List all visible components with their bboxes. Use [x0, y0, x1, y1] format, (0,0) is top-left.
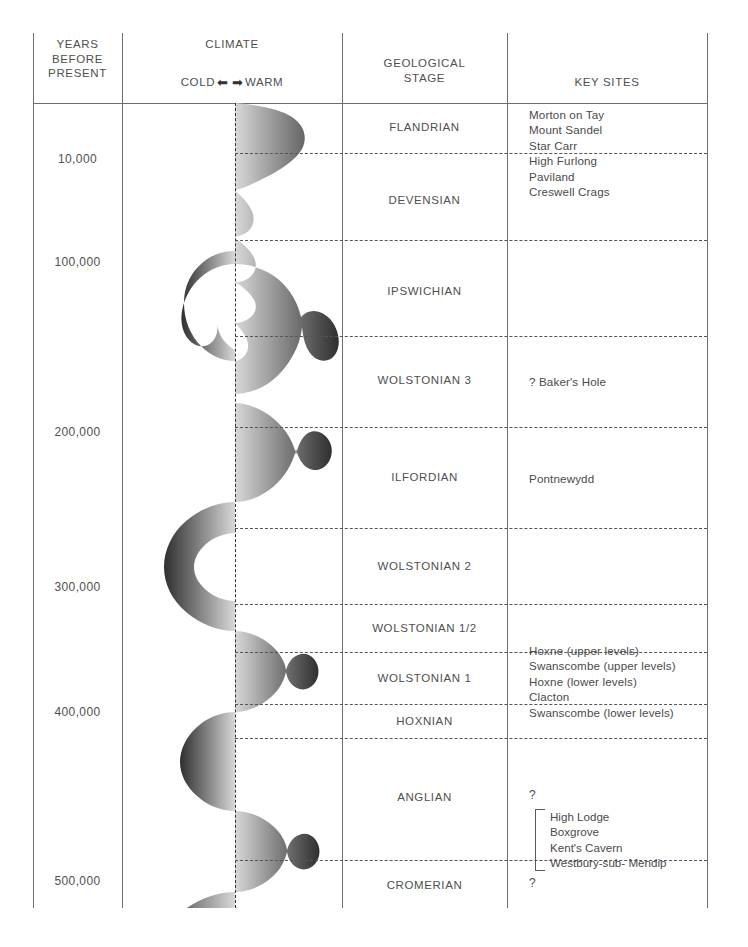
climate-curve-chart	[122, 103, 342, 908]
stage-boundary-flandrian-devensian	[235, 153, 707, 154]
list-item: Star Carr	[529, 138, 610, 153]
left-arrow-icon: ⬅	[215, 75, 230, 90]
stage-label-hoxnian: HOXNIAN	[342, 715, 507, 727]
list-item: Morton on Tay	[529, 107, 610, 122]
climate-curve-ilfordian-warm	[235, 403, 332, 502]
year-tick-100000: 100,000	[33, 255, 122, 269]
stage-boundary-wolstonian2-wolstonian12	[235, 604, 707, 605]
cold-label: COLD	[181, 76, 215, 88]
climate-curve-wolstonian2-cold	[164, 502, 235, 631]
chart-frame: YEARS BEFORE PRESENT CLIMATE COLD⬅➡WARM …	[33, 33, 708, 908]
year-tick-10000: 10,000	[33, 152, 122, 166]
column-header-geological-stage: GEOLOGICAL STAGE	[342, 56, 507, 86]
list-item: Mount Sandel	[529, 122, 610, 137]
climate-curve-wolstonian12-warm	[235, 631, 318, 712]
stage-boundary-ipswichian-wolstonian3	[235, 336, 707, 337]
climate-curve-hoxnian-warm	[235, 811, 319, 892]
stage-label-ilfordian: ILFORDIAN	[342, 471, 507, 483]
stage-label-cromerian: CROMERIAN	[342, 879, 507, 891]
stage-label-wolstonian-1: WOLSTONIAN 1	[342, 672, 507, 684]
year-tick-400000: 400,000	[33, 705, 122, 719]
column-header-key-sites: KEY SITES	[507, 75, 707, 90]
list-item: Hoxne (lower levels)	[529, 674, 676, 689]
climate-curve-anglian-cold	[155, 892, 235, 908]
list-item: Boxgrove	[550, 824, 666, 839]
stage-header-line2: STAGE	[342, 71, 507, 86]
column-divider-stage	[507, 33, 508, 908]
years-header-line3: PRESENT	[33, 66, 122, 81]
stage-header-line1: GEOLOGICAL	[342, 56, 507, 71]
stage-boundary-hoxnian-anglian	[235, 738, 707, 739]
climate-zero-axis	[235, 103, 236, 908]
list-item: Hoxne (upper levels)	[529, 643, 676, 658]
column-header-climate: CLIMATE	[122, 37, 342, 52]
key-sites-list-hoxnian: Hoxne (upper levels) Swanscombe (upper l…	[529, 643, 676, 720]
years-header-line1: YEARS	[33, 37, 122, 52]
stage-label-anglian: ANGLIAN	[342, 791, 507, 803]
list-item: Swanscombe (upper levels)	[529, 658, 676, 673]
key-sites-bracketed-group: High Lodge Boxgrove Kent's Cavern Westbu…	[535, 809, 666, 871]
key-site-bakers-hole: ? Baker's Hole	[529, 374, 606, 389]
stage-label-devensian: DEVENSIAN	[342, 194, 507, 206]
year-tick-500000: 500,000	[33, 874, 122, 888]
list-item: Paviland	[529, 169, 610, 184]
stage-label-ipswichian: IPSWICHIAN	[342, 285, 507, 297]
right-arrow-icon: ➡	[230, 75, 245, 90]
stage-label-wolstonian-3: WOLSTONIAN 3	[342, 374, 507, 386]
list-item: High Furlong	[529, 153, 610, 168]
key-sites-list-flandrian-devensian: Morton on Tay Mount Sandel Star Carr Hig…	[529, 107, 610, 199]
list-item: Clacton	[529, 689, 676, 704]
stage-boundary-wolstonian3-ilfordian	[235, 427, 707, 428]
climate-curve-cromerian	[235, 907, 251, 908]
key-site-anglian-query: ?	[529, 788, 536, 802]
key-site-pontnewydd: Pontnewydd	[529, 471, 594, 486]
stage-boundary-ilfordian-wolstonian2	[235, 528, 707, 529]
column-header-years: YEARS BEFORE PRESENT	[33, 37, 122, 81]
list-item: High Lodge	[550, 809, 666, 824]
climate-scale-legend: COLD⬅➡WARM	[122, 75, 342, 91]
climate-curve-cold-fill	[181, 251, 235, 361]
key-site-cromerian-query: ?	[529, 876, 536, 890]
list-item: Kent's Cavern	[550, 840, 666, 855]
years-header-line2: BEFORE	[33, 52, 122, 67]
stage-boundary-devensian-ipswichian	[235, 240, 707, 241]
bracketed-site-list: High Lodge Boxgrove Kent's Cavern Westbu…	[545, 809, 666, 871]
year-tick-200000: 200,000	[33, 425, 122, 439]
frame-right-border	[707, 33, 708, 908]
list-item: Swanscombe (lower levels)	[529, 705, 676, 720]
stage-label-wolstonian-1-2: WOLSTONIAN 1/2	[342, 622, 507, 634]
climate-curve-wolstonian1-cold	[180, 712, 235, 811]
stage-label-wolstonian-2: WOLSTONIAN 2	[342, 560, 507, 572]
list-item: Westbury-sub- Mendip	[550, 855, 666, 870]
climate-curve-warm-fill	[235, 103, 339, 394]
list-item: Creswell Crags	[529, 184, 610, 199]
bracket-icon	[535, 809, 545, 871]
stage-label-flandrian: FLANDRIAN	[342, 121, 507, 133]
warm-label: WARM	[245, 76, 283, 88]
year-tick-300000: 300,000	[33, 580, 122, 594]
